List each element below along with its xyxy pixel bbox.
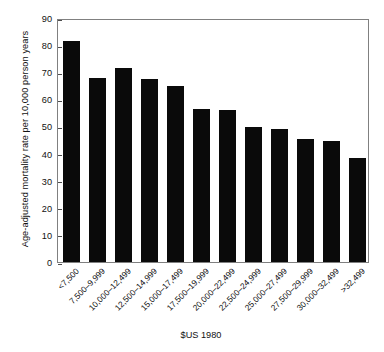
y-axis-tick-label: 80 (42, 41, 52, 51)
y-axis-title: Age-adjusted mortality rate per 10,000 p… (20, 14, 30, 264)
bar (219, 110, 236, 262)
bar (193, 109, 210, 262)
bar (141, 79, 158, 262)
y-axis-tick-mark (58, 155, 62, 156)
y-axis-tick-label: 30 (42, 177, 52, 187)
y-axis-tick-mark (58, 74, 62, 75)
y-axis-tick-mark (58, 209, 62, 210)
y-axis-tick-label: 90 (42, 14, 52, 24)
bar (271, 129, 288, 262)
y-axis-tick-mark (58, 236, 62, 237)
y-axis-tick-mark (58, 264, 62, 265)
bar (115, 68, 132, 262)
y-axis-tick-mark (58, 182, 62, 183)
y-axis-tick-label: 20 (42, 204, 52, 214)
y-axis-tick-label: 40 (42, 150, 52, 160)
bar-chart-figure: Age-adjusted mortality rate per 10,000 p… (0, 0, 384, 352)
y-axis-tick-mark (58, 128, 62, 129)
y-axis-tick-mark (58, 47, 62, 48)
bar (167, 86, 184, 262)
y-axis-tick-mark (58, 20, 62, 21)
bar (63, 41, 80, 262)
y-axis-tick-label: 10 (42, 231, 52, 241)
y-axis-tick-label: 0 (47, 258, 52, 268)
y-axis-tick-label: 70 (42, 68, 52, 78)
y-axis-tick-label: 50 (42, 122, 52, 132)
bar (89, 78, 106, 262)
plot-area: 0102030405060708090 (57, 19, 369, 263)
bar (245, 127, 262, 262)
y-axis-tick-mark (58, 101, 62, 102)
bar (297, 139, 314, 262)
bar (349, 158, 366, 262)
bar (323, 141, 340, 262)
y-axis-tick-label: 60 (42, 95, 52, 105)
